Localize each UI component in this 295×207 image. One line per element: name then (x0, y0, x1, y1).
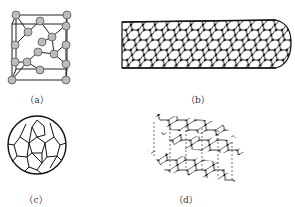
panel-a-label: （a） (17, 93, 57, 106)
panel-d-label: （d） (166, 193, 206, 206)
panel-c-label: （c） (16, 193, 56, 206)
panel-b-label: （b） (178, 93, 218, 106)
panel-a-diamond: （a） (0, 0, 80, 110)
panel-c-fullerene: （c） (0, 110, 90, 207)
panel-d-graphite: （d） (90, 110, 295, 207)
panel-b-nanotube: （b） (80, 0, 295, 110)
